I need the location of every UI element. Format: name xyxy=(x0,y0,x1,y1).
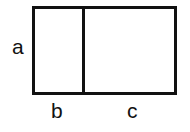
label-height-a: a xyxy=(12,36,24,57)
divider-line xyxy=(82,6,85,95)
label-width-c: c xyxy=(127,100,138,121)
outer-rectangle xyxy=(32,6,177,95)
label-width-b: b xyxy=(51,100,63,121)
